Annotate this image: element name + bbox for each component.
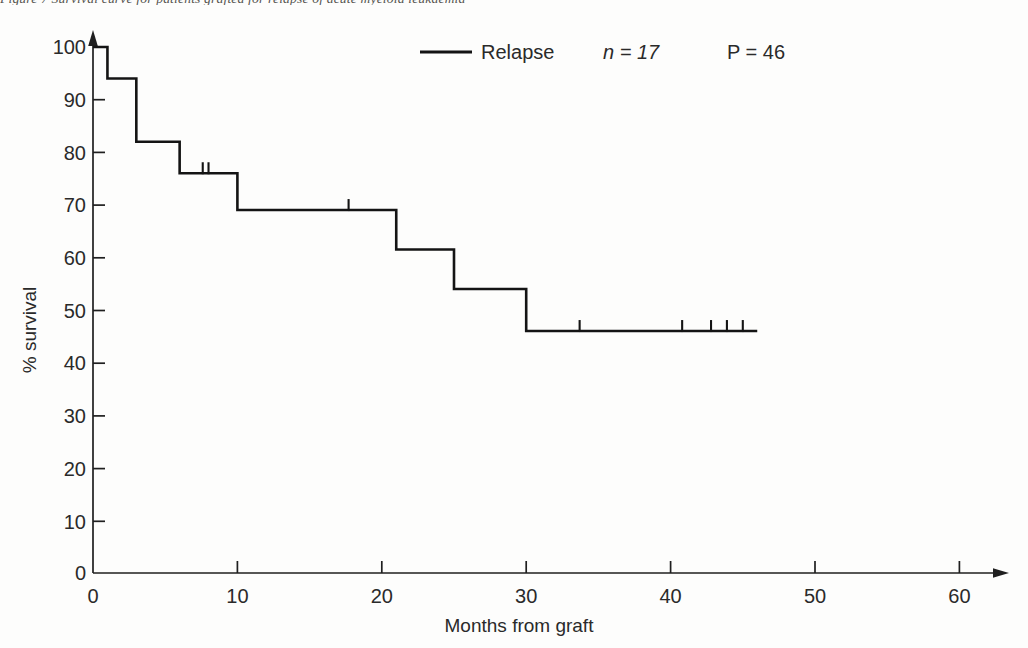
y-axis xyxy=(88,30,98,573)
y-tick-label-60: 60 xyxy=(64,247,86,269)
x-tick-label-0: 0 xyxy=(87,585,98,607)
x-tick-label-60: 60 xyxy=(948,585,970,607)
y-axis-arrowhead xyxy=(88,30,98,46)
x-tick-label-20: 20 xyxy=(371,585,393,607)
relapse-survival-curve xyxy=(93,47,757,331)
y-tick-label-40: 40 xyxy=(64,352,86,374)
y-tick-label-70: 70 xyxy=(64,194,86,216)
x-axis-arrowhead xyxy=(993,568,1009,578)
y-tick-label-20: 20 xyxy=(64,458,86,480)
figure-container: Figure 7 Survival curve for patients gra… xyxy=(0,0,1028,648)
x-axis xyxy=(93,568,1009,578)
y-tick-label-90: 90 xyxy=(64,89,86,111)
x-tick-label-50: 50 xyxy=(804,585,826,607)
y-tick-label-0: 0 xyxy=(75,562,86,584)
x-tick-label-30: 30 xyxy=(515,585,537,607)
y-axis-tick-labels: 0 10 20 30 40 50 60 70 80 90 100 xyxy=(53,36,86,584)
legend-series-label: Relapse xyxy=(481,41,554,63)
censor-marks-group xyxy=(203,162,743,332)
y-axis-ticks xyxy=(93,47,105,521)
x-axis-title: Months from graft xyxy=(445,615,595,636)
kaplan-meier-chart: 0 10 20 30 40 50 60 70 80 90 100 % survi… xyxy=(0,0,1028,648)
y-tick-label-30: 30 xyxy=(64,405,86,427)
y-tick-label-80: 80 xyxy=(64,142,86,164)
y-tick-label-50: 50 xyxy=(64,300,86,322)
chart-legend: Relapse n = 17 P = 46 xyxy=(420,41,785,63)
y-axis-title: % survival xyxy=(19,287,40,374)
y-tick-label-10: 10 xyxy=(64,511,86,533)
x-axis-tick-labels: 0 10 20 30 40 50 60 xyxy=(87,585,970,607)
x-axis-ticks xyxy=(237,561,959,573)
legend-p-label: P = 46 xyxy=(727,41,785,63)
x-tick-label-40: 40 xyxy=(659,585,681,607)
x-tick-label-10: 10 xyxy=(226,585,248,607)
y-tick-label-100: 100 xyxy=(53,36,86,58)
legend-n-label: n = 17 xyxy=(603,41,660,63)
